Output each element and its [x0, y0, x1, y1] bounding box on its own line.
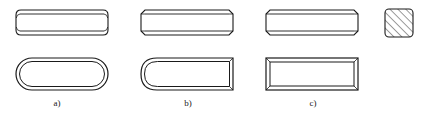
key-b-plan-inner-outline: [145, 62, 230, 87]
pictorial-view-a: [16, 10, 108, 35]
pictorial-view-b: [141, 10, 233, 35]
cross-section-hatched-square: [385, 9, 413, 37]
plan-view-b: [141, 58, 233, 90]
key-a-plan-inner-outline: [20, 62, 105, 87]
pictorial-view-c: [266, 10, 358, 35]
technical-drawing-figure: a) b) c): [0, 0, 425, 118]
plan-view-a: [16, 58, 108, 90]
plan-view-c: [266, 58, 358, 90]
key-c-plan-inner-outline: [270, 62, 354, 86]
drawing-canvas: [0, 0, 425, 118]
cross-section-view: [385, 9, 413, 37]
